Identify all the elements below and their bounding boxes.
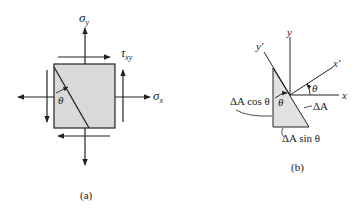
theta-axes-label: θ — [312, 82, 318, 94]
sigma-y-label: σy — [79, 10, 89, 27]
caption-b: (b) — [291, 161, 304, 174]
theta-wedge-label: θ — [278, 96, 284, 108]
dA-cos-label: ΔA cos θ — [230, 95, 270, 107]
leader-dA — [304, 106, 312, 108]
tau-xy-label: τxy — [121, 46, 133, 62]
theta-arc-axes — [307, 84, 310, 95]
dA-label: ΔA — [313, 100, 328, 112]
panel-a: σy τxy σx θ (a) — [18, 10, 163, 202]
panel-b: y y′ x′ x θ θ ΔA cos θ ΔA ΔA sin θ (b) — [230, 26, 347, 174]
stress-transformation-figure: σy τxy σx θ (a) y y′ x′ x θ θ ΔA cos θ Δ… — [0, 0, 362, 211]
leader-cos — [236, 110, 272, 116]
dA-sin-label: ΔA sin θ — [282, 132, 320, 144]
y-prime-label: y′ — [255, 40, 264, 52]
x-prime-label: x′ — [332, 57, 341, 69]
theta-label-a: θ — [58, 94, 64, 106]
y-axis-label: y — [286, 26, 292, 38]
caption-a: (a) — [80, 189, 93, 202]
x-axis-label: x — [341, 89, 347, 101]
sigma-x-label: σx — [153, 88, 163, 105]
